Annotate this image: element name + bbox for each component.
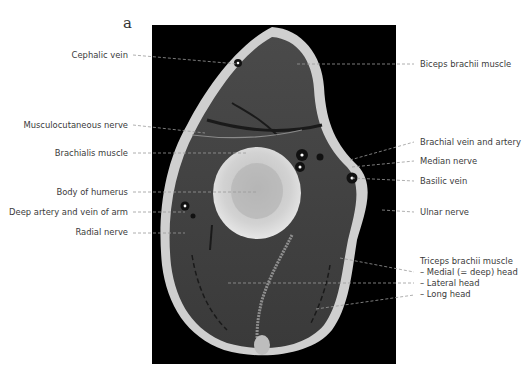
cross-section-image: [152, 25, 396, 364]
label-body-of-humerus: Body of humerus: [56, 187, 128, 197]
label-brachial-vein-artery: Brachial vein and artery: [420, 137, 521, 147]
label-brachialis-muscle: Brachialis muscle: [55, 148, 128, 158]
label-triceps-brachii: Triceps brachii muscle: [420, 256, 513, 266]
arm-cross-section-illustration: [152, 25, 396, 364]
label-basilic-vein: Basilic vein: [420, 176, 467, 186]
label-biceps-brachii: Biceps brachii muscle: [420, 59, 511, 69]
label-ulnar-nerve: Ulnar nerve: [420, 207, 469, 217]
label-triceps-lateral-head: – Lateral head: [420, 278, 480, 288]
label-radial-nerve: Radial nerve: [75, 227, 128, 237]
label-cephalic-vein: Cephalic vein: [72, 50, 128, 60]
figure-panel-letter: a: [123, 14, 132, 32]
label-triceps-medial-head: – Medial (= deep) head: [420, 267, 518, 277]
label-median-nerve: Median nerve: [420, 156, 477, 166]
label-triceps-long-head: – Long head: [420, 289, 471, 299]
label-musculocutaneous-nerve: Musculocutaneous nerve: [23, 120, 128, 130]
label-deep-artery-vein-arm: Deep artery and vein of arm: [9, 207, 128, 217]
